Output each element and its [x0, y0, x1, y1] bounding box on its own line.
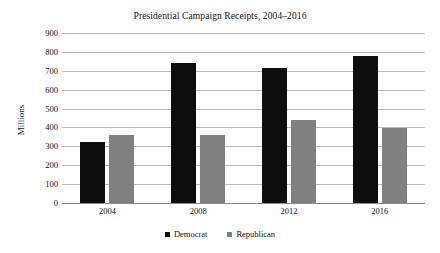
x-axis-line: [62, 203, 425, 204]
y-axis-tick-label: 0: [24, 199, 58, 208]
y-axis-tick-label: 400: [24, 123, 58, 132]
chart-title: Presidential Campaign Receipts, 2004–201…: [0, 11, 440, 21]
y-axis-tick-label: 300: [24, 142, 58, 151]
y-axis-tick-label: 600: [24, 86, 58, 95]
x-axis-tick-label-2016: 2016: [334, 206, 425, 216]
bar-democrat-2008: [171, 63, 196, 203]
y-axis-tick-label: 500: [24, 105, 58, 114]
x-axis-ticks: 2004200820122016: [62, 206, 425, 220]
y-axis-ticks: 9008007006005004003002001000: [20, 33, 58, 203]
y-axis-tick-label: 800: [24, 48, 58, 57]
bar-series-layer: [62, 33, 425, 203]
bar-republican-2004: [109, 135, 134, 203]
x-axis-tick-label-2004: 2004: [62, 206, 153, 216]
legend-label: Republican: [236, 229, 275, 239]
x-axis-tick-label-2012: 2012: [244, 206, 335, 216]
y-axis-tick-label: 900: [24, 29, 58, 38]
bar-republican-2012: [291, 120, 316, 203]
bar-chart: Presidential Campaign Receipts, 2004–201…: [0, 0, 440, 253]
bar-republican-2008: [200, 135, 225, 203]
legend-entry-democrat[interactable]: Democrat: [165, 229, 208, 239]
x-axis-tick-label-2008: 2008: [153, 206, 244, 216]
y-axis-tick-label: 200: [24, 161, 58, 170]
legend-entry-republican[interactable]: Republican: [227, 229, 275, 239]
y-axis-tick-label: 100: [24, 180, 58, 189]
bar-democrat-2012: [262, 68, 287, 203]
bar-democrat-2004: [80, 142, 105, 203]
legend-label: Democrat: [174, 229, 208, 239]
square-marker: [227, 232, 232, 237]
y-axis-tick-label: 700: [24, 67, 58, 76]
chart-legend: DemocratRepublican: [0, 229, 440, 239]
bar-republican-2016: [382, 128, 407, 203]
square-marker: [165, 232, 170, 237]
bar-democrat-2016: [353, 56, 378, 203]
